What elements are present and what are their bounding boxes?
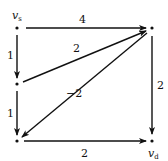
node-middle-left <box>15 82 18 85</box>
weight-ml-tr: 2 <box>73 42 80 55</box>
weight-tr-bl: −2 <box>66 87 82 100</box>
weight-vs-ml: 1 <box>7 49 14 62</box>
edge-ml-tr <box>23 31 146 82</box>
weight-ml-bl: 1 <box>7 107 14 120</box>
node-bottom-left <box>15 139 18 142</box>
weight-tr-vd: 2 <box>157 79 164 92</box>
edge-tr-bl <box>22 33 147 137</box>
graph-diagram: vs vd 4 1 2 1 −2 2 2 <box>0 0 168 161</box>
weight-bl-vd: 2 <box>81 147 88 160</box>
node-vd <box>150 139 153 142</box>
node-label-vd: vd <box>148 147 159 161</box>
node-vs <box>15 26 18 29</box>
node-top-right <box>150 26 153 29</box>
node-label-vs: vs <box>12 9 22 23</box>
weight-vs-tr: 4 <box>79 13 86 26</box>
